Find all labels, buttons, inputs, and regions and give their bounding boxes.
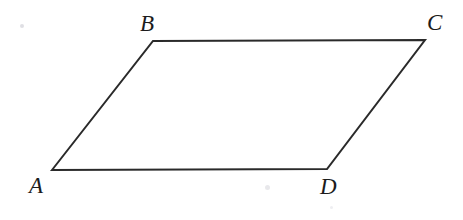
- vertex-label-c: C: [427, 11, 442, 34]
- vertex-label-a: A: [29, 174, 43, 197]
- vertex-label-b: B: [140, 12, 154, 35]
- vertex-label-d: D: [320, 175, 337, 198]
- parallelogram-outline: [52, 40, 425, 170]
- figure-canvas: A B C D: [0, 0, 463, 220]
- parallelogram-drawing: [0, 0, 463, 220]
